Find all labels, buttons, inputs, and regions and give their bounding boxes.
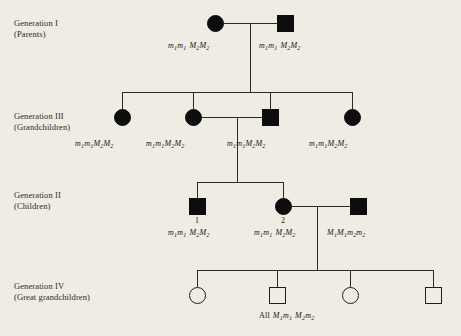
generation-roman-1: Generation I: [14, 18, 58, 29]
generation-roman-3: Generation III: [14, 111, 70, 122]
genotype-gen2-male-1: m1m1M2M2: [168, 228, 210, 238]
pedigree-chart: Generation I (Parents) m1m1M2M2 m1m1M2M2…: [0, 0, 461, 336]
generation-label-1: Generation I (Parents): [14, 18, 58, 40]
generation-roman-4: Generation IV: [14, 281, 90, 292]
individual-gen3-female-2: [185, 109, 202, 126]
sibline-gen4-child2: [277, 270, 278, 287]
individual-gen2-male-1: [189, 198, 206, 215]
generation-label-4: Generation IV (Great grandchildren): [14, 281, 90, 303]
generation-relation-1: (Parents): [14, 29, 58, 40]
genotype-gen2-male-spouse: M1M1m2m2: [327, 228, 366, 238]
individual-number-2: 2: [281, 216, 285, 225]
individual-gen3-female-3: [344, 109, 361, 126]
descent-line-gen2: [317, 206, 318, 270]
sibline-gen3-child1: [122, 92, 123, 109]
generation-roman-2: Generation II: [14, 190, 61, 201]
sibship-bar-gen2: [197, 182, 283, 183]
individual-gen2-female-2: [275, 198, 292, 215]
individual-gen4-male-1: [269, 287, 286, 304]
genotype-gen3-female-3: m1m1M2M2: [309, 139, 348, 149]
sibline-gen4-child4: [433, 270, 434, 287]
sibline-gen4-child3: [350, 270, 351, 287]
sibline-gen2-child2: [283, 182, 284, 198]
genotype-gen3-male: m1m1M2M2: [227, 139, 266, 149]
individual-gen2-male-spouse: [350, 198, 367, 215]
genotype-gen3-female-1: m1m1M2M2: [75, 139, 114, 149]
sibline-gen2-child1: [197, 182, 198, 198]
mating-line-gen2: [292, 206, 350, 207]
genotype-gen4-summary: AllM1m1M2m2: [259, 311, 314, 321]
individual-gen4-male-2: [425, 287, 442, 304]
generation-label-2: Generation II (Children): [14, 190, 61, 212]
descent-line-gen3: [237, 117, 238, 182]
individual-gen1-female: [207, 15, 224, 32]
sibline-gen3-child4: [352, 92, 353, 109]
mating-line-gen3: [202, 117, 262, 118]
sibline-gen4-child1: [197, 270, 198, 287]
generation-label-3: Generation III (Grandchildren): [14, 111, 70, 133]
genotype-gen1-female: m1m1M2M2: [168, 41, 210, 51]
genotype-gen1-male: m1m1M2M2: [259, 41, 301, 51]
descent-line-gen1: [250, 23, 251, 92]
sibline-gen3-child3: [270, 92, 271, 109]
generation-relation-4: (Great grandchildren): [14, 292, 90, 303]
generation-relation-3: (Grandchildren): [14, 122, 70, 133]
individual-gen3-female-1: [114, 109, 131, 126]
sibship-bar-gen3: [122, 92, 352, 93]
individual-gen1-male: [277, 15, 294, 32]
individual-gen3-male: [262, 109, 279, 126]
individual-gen4-female-2: [342, 287, 359, 304]
generation-relation-2: (Children): [14, 201, 61, 212]
individual-gen4-female-1: [189, 287, 206, 304]
sibship-bar-gen4: [197, 270, 433, 271]
sibline-gen3-child2: [193, 92, 194, 109]
genotype-gen2-female-2: m1m1M2M2: [254, 228, 296, 238]
individual-number-1: 1: [195, 216, 199, 225]
genotype-gen3-female-2: m1m1M2M2: [146, 139, 185, 149]
